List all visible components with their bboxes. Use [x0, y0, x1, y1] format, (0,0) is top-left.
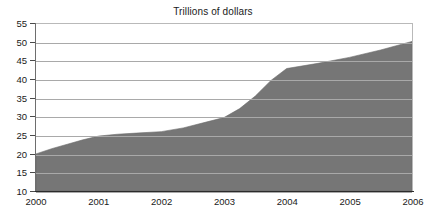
x-axis-label: 2006: [391, 196, 426, 207]
x-axis-label: 2004: [265, 196, 309, 207]
gridline: [36, 192, 412, 193]
y-axis-tick: [30, 116, 35, 117]
y-axis-tick: [30, 42, 35, 43]
y-axis-label: 15: [1, 167, 27, 178]
y-axis-label: 10: [1, 186, 27, 197]
y-axis-label: 20: [1, 148, 27, 159]
y-axis-label: 55: [1, 18, 27, 29]
gridline: [36, 173, 412, 174]
gridline: [36, 99, 412, 100]
x-axis-label: 2000: [14, 196, 58, 207]
y-axis-tick: [30, 154, 35, 155]
gridline: [36, 117, 412, 118]
gridline: [36, 43, 412, 44]
area-series-trillions-of-dollars: [36, 41, 412, 191]
x-axis-line: [35, 191, 414, 192]
y-axis-label: 50: [1, 36, 27, 47]
gridline: [36, 155, 412, 156]
x-axis-label: 2002: [140, 196, 184, 207]
chart-container: Trillions of dollars 1015202530354045505…: [0, 0, 426, 223]
y-axis-label: 40: [1, 74, 27, 85]
area-series-svg: [36, 24, 412, 191]
gridline: [36, 136, 412, 137]
chart-title: Trillions of dollars: [0, 6, 426, 17]
y-axis-label: 45: [1, 55, 27, 66]
y-axis-label: 25: [1, 130, 27, 141]
y-axis-tick: [30, 23, 35, 24]
y-axis-tick: [30, 135, 35, 136]
y-axis-label: 30: [1, 111, 27, 122]
plot-area: [36, 23, 413, 191]
gridline: [36, 61, 412, 62]
x-axis-label: 2005: [328, 196, 372, 207]
y-axis-label: 35: [1, 92, 27, 103]
y-axis-tick: [30, 60, 35, 61]
y-axis-tick: [30, 172, 35, 173]
x-axis-label: 2003: [203, 196, 247, 207]
x-axis-label: 2001: [77, 196, 121, 207]
y-axis-tick: [30, 98, 35, 99]
y-axis-tick: [30, 79, 35, 80]
gridline: [36, 80, 412, 81]
